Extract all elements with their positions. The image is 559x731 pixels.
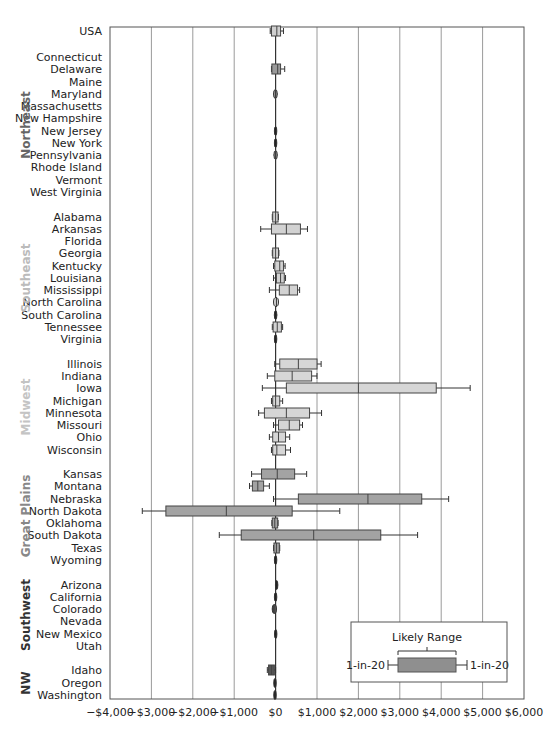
box-tennessee xyxy=(272,322,282,332)
box-oregon xyxy=(274,679,276,688)
state-label: Idaho xyxy=(71,664,102,677)
box-washington xyxy=(274,691,276,700)
box-minnesota xyxy=(259,408,322,418)
boxplot-chart: USAConnecticutDelawareMaineMarylandMassa… xyxy=(0,0,559,731)
state-label: South Dakota xyxy=(28,529,102,542)
box-iowa xyxy=(262,383,470,393)
state-label: Rhode Island xyxy=(31,161,102,174)
region-label: Southwest xyxy=(19,579,33,651)
box-ohio xyxy=(269,432,289,442)
region-label: Great Plains xyxy=(19,475,33,558)
x-tick-label: $3,000 xyxy=(381,706,420,719)
state-label: Wisconsin xyxy=(47,444,102,457)
box-virginia xyxy=(274,335,276,344)
box-illinois xyxy=(275,359,321,369)
box-north-carolina xyxy=(273,298,279,307)
box-california xyxy=(274,593,276,602)
legend: Likely Range 1-in-20 1-in-20 xyxy=(346,622,509,682)
box-series xyxy=(142,26,470,700)
box-new-mexico xyxy=(275,630,277,639)
box-maryland xyxy=(273,90,278,99)
state-label: Iowa xyxy=(76,382,102,395)
legend-title: Likely Range xyxy=(392,631,462,644)
box-wisconsin xyxy=(271,445,290,455)
box-kansas xyxy=(252,469,307,479)
x-tick-label: $2,000 xyxy=(339,706,378,719)
state-label: West Virginia xyxy=(30,186,102,199)
box-arkansas xyxy=(261,224,308,234)
box-wyoming xyxy=(274,556,276,565)
x-axis-tick-labels: −$4,000−$3,000−$2,000−$1,000$0$1,000$2,0… xyxy=(86,706,543,719)
box-georgia xyxy=(272,248,279,258)
region-label: Midwest xyxy=(19,378,33,435)
state-label: Virginia xyxy=(61,333,102,346)
box-new-jersey xyxy=(274,127,276,136)
state-label: Nevada xyxy=(60,615,102,628)
state-label: Utah xyxy=(76,640,102,653)
state-label: Washington xyxy=(37,689,102,702)
box-arizona xyxy=(275,581,278,590)
box-nebraska xyxy=(274,494,449,504)
state-label: Delaware xyxy=(50,63,102,76)
state-label: Wyoming xyxy=(50,554,102,567)
box-indiana xyxy=(267,371,317,381)
state-label: Georgia xyxy=(59,247,102,260)
box-missouri xyxy=(274,420,303,430)
box-north-dakota xyxy=(142,506,339,516)
box-mississippi xyxy=(269,285,299,295)
x-tick-label: $5,000 xyxy=(463,706,502,719)
region-label: Northeast xyxy=(19,91,33,159)
box-new-york xyxy=(274,139,276,148)
box-kentucky xyxy=(274,261,286,271)
box-south-carolina xyxy=(274,311,277,320)
box-idaho xyxy=(267,665,275,675)
region-labels: NortheastSoutheastMidwestGreat PlainsSou… xyxy=(19,91,33,695)
box-south-dakota xyxy=(219,530,417,540)
box-pennsylvania xyxy=(274,151,278,160)
box-oklahoma xyxy=(272,518,278,528)
region-label: Southeast xyxy=(19,243,33,312)
x-tick-label: $4,000 xyxy=(422,706,461,719)
state-label: Montana xyxy=(54,480,102,493)
state-label: USA xyxy=(79,25,102,38)
legend-box xyxy=(398,658,456,672)
box-alabama xyxy=(272,212,278,222)
box-colorado xyxy=(272,605,277,614)
legend-right-label: 1-in-20 xyxy=(470,659,509,672)
x-tick-label: $1,000 xyxy=(298,706,337,719)
state-label: Ohio xyxy=(77,431,103,444)
x-tick-label: −$1,000 xyxy=(210,706,258,719)
x-tick-label: $0 xyxy=(269,706,283,719)
box-montana xyxy=(250,481,270,491)
x-tick-label: $6,000 xyxy=(505,706,544,719)
region-label: NW xyxy=(19,671,33,694)
box-delaware xyxy=(271,64,284,74)
box-michigan xyxy=(271,396,282,406)
box-texas xyxy=(274,543,280,553)
state-label: North Carolina xyxy=(22,296,102,309)
legend-left-label: 1-in-20 xyxy=(346,659,385,672)
